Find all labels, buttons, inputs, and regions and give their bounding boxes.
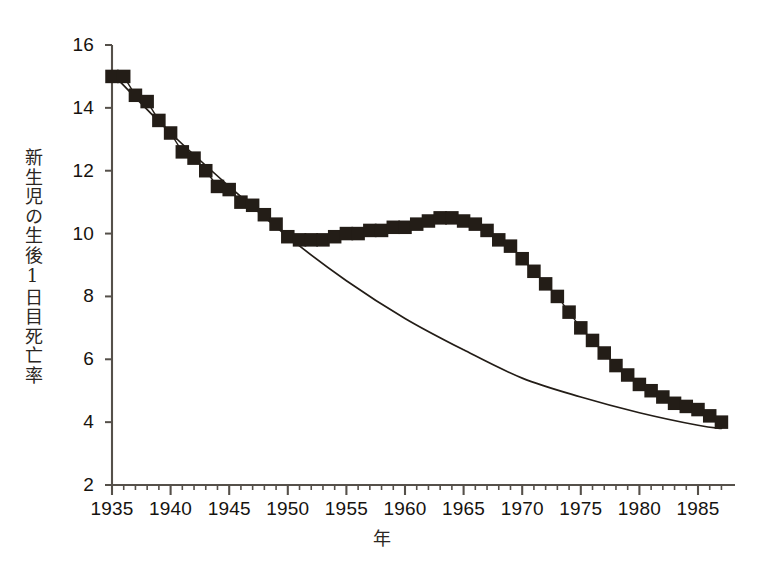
x-axis-label: 年: [0, 524, 763, 550]
data-point: [668, 397, 682, 411]
y-axis-label: 新生児の生後1日目死亡率: [14, 148, 42, 385]
data-point: [328, 230, 342, 244]
data-point: [117, 70, 131, 84]
data-point: [703, 409, 717, 423]
data-point: [656, 390, 670, 404]
data-point: [363, 224, 377, 238]
axis-lines: [112, 45, 735, 485]
data-point: [152, 114, 166, 128]
data-point: [222, 183, 236, 197]
data-point: [398, 221, 412, 235]
data-point: [211, 180, 225, 194]
data-point: [340, 227, 354, 241]
data-point: [258, 208, 272, 222]
data-point: [715, 415, 729, 429]
y-tick-label: 2: [60, 474, 94, 496]
data-point: [597, 346, 611, 360]
data-point: [469, 217, 483, 231]
data-point: [351, 227, 365, 241]
data-point: [515, 252, 529, 266]
data-point: [269, 217, 283, 231]
data-point: [562, 305, 576, 319]
data-point: [375, 224, 389, 238]
data-point: [410, 217, 424, 231]
data-point: [445, 211, 459, 225]
x-axis-ticks: [112, 485, 721, 495]
y-tick-label: 12: [60, 160, 94, 182]
data-point-markers: [105, 70, 728, 429]
data-point: [176, 145, 190, 159]
data-point: [621, 368, 635, 382]
data-point: [281, 230, 295, 244]
data-point: [164, 126, 178, 140]
data-point: [304, 233, 318, 247]
chart-figure: 新生児の生後1日目死亡率 年 246810121416 193519401945…: [0, 0, 763, 573]
data-point: [387, 221, 401, 235]
data-point: [457, 214, 471, 228]
y-tick-label: 6: [60, 348, 94, 370]
chart-plot-area: [0, 0, 763, 573]
data-point: [199, 164, 213, 178]
y-tick-label: 4: [60, 411, 94, 433]
data-point: [644, 384, 658, 398]
data-point: [140, 95, 154, 109]
y-tick-label: 8: [60, 285, 94, 307]
data-point: [422, 214, 436, 228]
data-point: [504, 239, 517, 253]
x-tick-label: 1985: [663, 498, 733, 520]
data-point: [433, 211, 447, 225]
data-point: [480, 224, 494, 238]
y-tick-label: 16: [60, 34, 94, 56]
data-point: [492, 233, 506, 247]
data-point: [633, 378, 647, 392]
data-point: [680, 400, 694, 414]
data-point: [574, 321, 588, 335]
data-point: [129, 89, 143, 103]
data-point: [293, 233, 307, 247]
data-point: [586, 334, 600, 348]
data-point: [105, 70, 119, 84]
data-point: [234, 195, 248, 209]
y-tick-label: 10: [60, 223, 94, 245]
data-point: [539, 277, 553, 291]
data-point: [527, 265, 541, 279]
y-tick-label: 14: [60, 97, 94, 119]
data-point: [551, 290, 565, 304]
data-point: [246, 199, 260, 213]
data-point: [316, 233, 330, 247]
data-point: [691, 403, 705, 417]
data-point: [187, 151, 201, 165]
data-point: [609, 359, 623, 373]
